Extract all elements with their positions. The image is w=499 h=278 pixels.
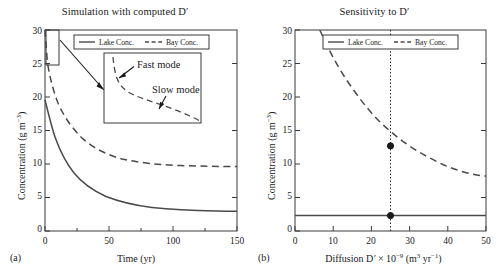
panel-b-ytick-0: 0 <box>268 224 292 234</box>
panel-b-xtick-50: 50 <box>476 236 496 246</box>
panel-a-x-axis-label: Time (yr) <box>22 253 250 264</box>
panel-b-ytick-20: 20 <box>268 92 292 102</box>
panel-a-ytick-5: 5 <box>18 191 42 201</box>
panel-a-legend-lake-label: Lake Conc. <box>99 38 134 47</box>
panel-a-ytick-25: 25 <box>18 59 42 69</box>
panel-b-ytick-5: 5 <box>268 191 292 201</box>
panel-b-y-axis-label-exponent: −3 <box>265 115 272 122</box>
panel-a-xtick-0: 0 <box>35 236 55 246</box>
panel-b-xlabel-unit-close: ) <box>438 253 441 264</box>
panel-b-ytick-10: 10 <box>268 158 292 168</box>
y-axis-label-exponent: −3 <box>15 115 22 122</box>
panel-b: Sensitivity to D′ Concentration (g m−3) … <box>250 0 499 278</box>
panel-b-xlabel-pre: Diffusion D <box>325 253 373 264</box>
panel-b-xlabel-unit-open: (m <box>403 253 417 264</box>
panel-a-ytick-15: 15 <box>18 125 42 135</box>
figure-container: Simulation with computed D′ Concentratio… <box>0 0 499 278</box>
panel-b-tag: (b) <box>258 252 270 263</box>
panel-a-tag: (a) <box>10 252 21 263</box>
panel-a-title: Simulation with computed D′ <box>0 6 250 17</box>
panel-a-ytick-20: 20 <box>18 92 42 102</box>
panel-b-xtick-30: 30 <box>400 236 420 246</box>
panel-b-xlabel-mid: × 10 <box>375 253 396 264</box>
panel-a-legend-bay-label: Bay Conc. <box>166 38 198 47</box>
panel-b-xtick-0: 0 <box>285 236 305 246</box>
panel-b-ytick-15: 15 <box>268 125 292 135</box>
panel-a-ytick-10: 10 <box>18 158 42 168</box>
panel-b-marker-lake <box>387 213 393 219</box>
panel-b-title: Sensitivity to D′ <box>250 6 499 17</box>
inset-slow-mode-label: Slow mode <box>152 84 200 95</box>
panel-b-xtick-20: 20 <box>361 236 381 246</box>
panel-b-legend-lake-label: Lake Conc. <box>348 38 383 47</box>
panel-a-xtick-50: 50 <box>99 236 119 246</box>
panel-b-ytick-25: 25 <box>268 59 292 69</box>
inset-fast-mode-label: Fast mode <box>137 59 181 70</box>
panel-a: Simulation with computed D′ Concentratio… <box>0 0 250 278</box>
panel-a-xtick-150: 150 <box>227 236 247 246</box>
panel-b-legend-bay-label: Bay Conc. <box>415 38 447 47</box>
panel-b-xtick-10: 10 <box>323 236 343 246</box>
y-axis-label-close: ) <box>16 112 27 115</box>
panel-b-xtick-40: 40 <box>438 236 458 246</box>
panel-a-xtick-100: 100 <box>163 236 183 246</box>
panel-b-marker-bay <box>387 143 393 149</box>
panel-b-x-axis-label: Diffusion D′ × 10−9 (m3 yr−1) <box>268 253 499 264</box>
panel-b-y-axis-label-close: ) <box>266 112 277 115</box>
panel-a-ytick-30: 30 <box>18 26 42 36</box>
panel-a-ytick-0: 0 <box>18 224 42 234</box>
panel-b-ytick-30: 30 <box>268 26 292 36</box>
panel-b-xlabel-unit-mid: yr <box>420 253 431 264</box>
